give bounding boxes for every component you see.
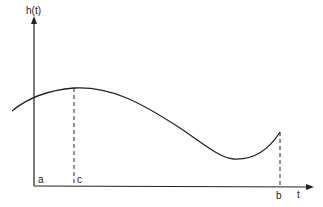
point-label-a: a xyxy=(38,174,44,185)
function-curve xyxy=(12,88,280,159)
diagram-canvas: h(t) t a c b xyxy=(0,0,323,207)
x-axis-label: t xyxy=(297,189,300,200)
point-label-c: c xyxy=(77,174,82,185)
point-label-b: b xyxy=(276,190,282,201)
x-axis xyxy=(34,186,310,187)
y-axis-label: h(t) xyxy=(26,5,41,16)
